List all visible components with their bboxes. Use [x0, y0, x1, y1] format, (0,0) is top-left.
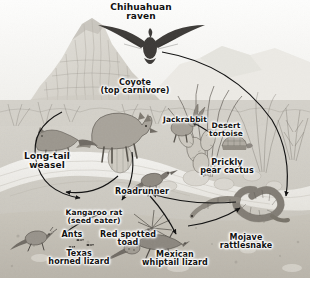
label-line-2: (top carnivore) — [100, 87, 169, 95]
label-kangaroo-rat: Kangaroo rat (seed eater) — [66, 209, 123, 224]
label-jackrabbit: Jackrabbit — [163, 116, 207, 124]
label-line-1: Ants — [62, 231, 83, 239]
label-prickly-pear-cactus: Prickly pear cactus — [200, 159, 254, 175]
label-long-tail-weasel: Long-tail weasel — [24, 152, 70, 170]
label-line-2: rattlesnake — [220, 242, 273, 250]
label-line-2: raven — [110, 12, 171, 21]
label-line-2: (seed eater) — [66, 217, 123, 225]
label-line-2: horned lizard — [48, 258, 109, 266]
label-mexican-whiptail-lizard: Mexican whiptail lizard — [142, 251, 208, 267]
label-ants: Ants — [62, 231, 83, 239]
label-mojave-rattlesnake: Mojave rattlesnake — [220, 234, 273, 250]
label-desert-tortoise: Desert tortoise — [209, 122, 243, 137]
label-roadrunner: Roadrunner — [115, 188, 169, 196]
label-line-1: Jackrabbit — [163, 116, 207, 124]
label-line-2: tortoise — [209, 130, 243, 138]
label-chihuahuan-raven: Chihuahuan raven — [110, 3, 171, 21]
label-line-2: toad — [100, 239, 156, 247]
label-line-2: whiptail lizard — [142, 259, 208, 267]
label-line-2: weasel — [24, 161, 70, 170]
label-line-1: Roadrunner — [115, 188, 169, 196]
desert-food-web-figure: Chihuahuan raven Coyote (top carnivore) … — [0, 0, 310, 288]
label-red-spotted-toad: Red spotted toad — [100, 231, 156, 247]
label-coyote: Coyote (top carnivore) — [100, 79, 169, 95]
label-texas-horned-lizard: Texas horned lizard — [48, 250, 109, 266]
label-line-2: pear cactus — [200, 167, 254, 175]
